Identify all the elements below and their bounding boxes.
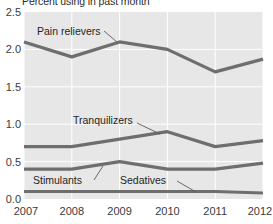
series-line-sedatives: [24, 192, 263, 194]
x-tick-2012: 2012: [248, 205, 272, 217]
x-tick-2011: 2011: [203, 205, 227, 217]
x-tick-2008: 2008: [60, 205, 84, 217]
y-tick-5: 2.5: [6, 6, 21, 18]
x-axis-tick-labels: 2007 2008 2009 2010 2011 2012: [14, 205, 272, 217]
x-tick-2009: 2009: [107, 205, 131, 217]
chart-plot-area: 0.0 0.5 1.0 1.5 2.0 2.5 2007 2008 2009 2…: [0, 0, 273, 224]
y-tick-2: 1.0: [6, 118, 21, 130]
series-label-pain-relievers: Pain relievers: [37, 25, 101, 37]
x-tick-2007: 2007: [14, 205, 38, 217]
series-label-sedatives: Sedatives: [120, 174, 166, 186]
x-tick-2010: 2010: [155, 205, 179, 217]
series-label-tranquilizers: Tranquilizers: [73, 114, 133, 126]
y-axis-tick-labels: 0.0 0.5 1.0 1.5 2.0 2.5: [6, 6, 21, 205]
y-tick-3: 1.5: [6, 81, 21, 93]
y-tick-4: 2.0: [6, 43, 21, 55]
series-label-stimulants: Stimulants: [33, 174, 82, 186]
y-tick-0: 0.0: [6, 193, 21, 205]
plot-background: [24, 12, 263, 199]
line-chart: Percent using in past month 0.0 0.5 1.0 …: [0, 0, 273, 224]
y-tick-1: 0.5: [6, 156, 21, 168]
